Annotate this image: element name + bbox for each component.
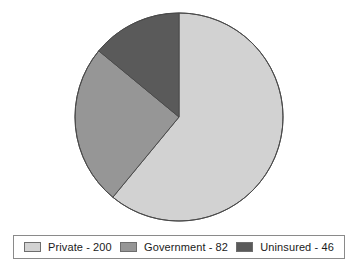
legend-item-government[interactable]: Government - 82 — [120, 242, 228, 253]
legend-label-government: Government - 82 — [144, 242, 228, 253]
legend-swatch-government — [120, 242, 137, 252]
legend-swatch-private — [24, 242, 41, 252]
pie-svg — [0, 0, 361, 228]
legend-label-uninsured: Uninsured - 46 — [260, 242, 334, 253]
pie-chart: Private - 200 Government - 82 Uninsured … — [0, 0, 361, 273]
chart-legend: Private - 200 Government - 82 Uninsured … — [13, 235, 345, 259]
legend-swatch-uninsured — [236, 242, 253, 252]
legend-item-uninsured[interactable]: Uninsured - 46 — [236, 242, 334, 253]
legend-item-private[interactable]: Private - 200 — [24, 242, 112, 253]
pie-plot-area — [0, 0, 361, 228]
legend-label-private: Private - 200 — [48, 242, 112, 253]
pie-slice-group — [75, 13, 283, 221]
